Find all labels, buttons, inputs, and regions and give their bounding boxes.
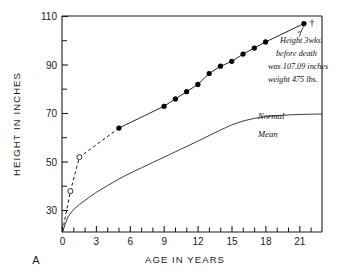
data-point-filled — [161, 104, 166, 109]
x-tick-labels: 0 3 6 9 12 15 18 21 — [60, 236, 306, 247]
data-point-filled — [207, 71, 212, 76]
data-point-filled — [218, 64, 223, 69]
y-tick-label-50: 50 — [46, 157, 58, 168]
data-point-filled — [184, 89, 189, 94]
x-axis-minor-ticks — [74, 228, 311, 233]
normal-mean-curve — [63, 114, 323, 232]
death-annotation-line-4: weight 475 lbs. — [268, 75, 318, 84]
death-annotation-line-3: was 107.09 inches — [268, 62, 328, 71]
y-tick-label-30: 30 — [46, 205, 58, 216]
data-point-filled — [229, 59, 234, 64]
y-tick-label-90: 90 — [46, 60, 58, 71]
normal-curve-label-lower: Mean — [257, 129, 278, 139]
data-point-open — [68, 189, 73, 194]
x-tick-label-15: 15 — [226, 236, 238, 247]
chart-svg: 110 90 70 50 30 HEIGHT IN INCHES — [0, 0, 345, 279]
data-point-filled — [301, 21, 306, 26]
annotation-leader-tick — [298, 31, 301, 32]
x-tick-label-18: 18 — [260, 236, 272, 247]
death-dagger-icon: † — [310, 17, 315, 28]
normal-curve-label-upper: Normal — [257, 111, 285, 121]
y-axis-title: HEIGHT IN INCHES — [11, 72, 22, 176]
x-tick-label-21: 21 — [294, 236, 306, 247]
death-annotation: Height 3wks. before death was 107.09 inc… — [268, 36, 328, 84]
x-tick-label-0: 0 — [60, 236, 66, 247]
y-tick-label-110: 110 — [41, 11, 57, 22]
data-point-filled — [240, 51, 245, 56]
y-axis-major-ticks — [62, 17, 68, 211]
early-estimated-dashed-line — [63, 128, 119, 231]
x-tick-label-9: 9 — [161, 236, 167, 247]
data-point-filled — [116, 125, 121, 130]
x-tick-label-6: 6 — [128, 236, 134, 247]
x-axis-major-ticks — [63, 226, 300, 232]
x-axis-title: AGE IN YEARS — [145, 254, 225, 265]
growth-chart-figure: 110 90 70 50 30 HEIGHT IN INCHES — [0, 0, 345, 279]
y-tick-label-70: 70 — [46, 108, 58, 119]
death-annotation-line-2: before death — [276, 49, 317, 58]
data-point-filled — [195, 82, 200, 87]
x-tick-label-12: 12 — [193, 236, 205, 247]
data-point-filled — [252, 45, 257, 50]
y-tick-labels: 110 90 70 50 30 — [41, 11, 57, 216]
panel-letter: A — [32, 254, 40, 266]
data-point-filled — [173, 96, 178, 101]
x-tick-label-3: 3 — [94, 236, 100, 247]
data-point-filled — [263, 39, 268, 44]
data-point-open — [77, 155, 82, 160]
death-annotation-line-1: Height 3wks. — [279, 36, 323, 45]
